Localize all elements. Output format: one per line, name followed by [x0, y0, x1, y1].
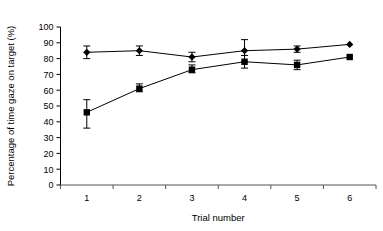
data-point-square [241, 59, 247, 65]
series-line [87, 57, 350, 112]
y-axis-tick-label: 70 [43, 70, 53, 80]
data-point-square [294, 62, 300, 68]
data-point-diamond [346, 41, 353, 48]
y-axis-tick-label: 100 [38, 22, 53, 32]
data-point-diamond [136, 47, 143, 54]
data-point-square [347, 54, 353, 60]
chart-figure: 0102030405060708090100 123456 Percentage… [0, 0, 383, 231]
series-square-series [83, 54, 353, 128]
x-axis-tick-label: 5 [295, 193, 300, 203]
series-diamond-series [83, 40, 353, 62]
data-series-group [83, 40, 353, 128]
y-axis-tick-label: 20 [43, 149, 53, 159]
data-point-diamond [188, 53, 195, 60]
x-axis-tick-label: 3 [189, 193, 194, 203]
data-point-diamond [241, 47, 248, 54]
y-axis-tick-label: 80 [43, 54, 53, 64]
data-point-square [189, 66, 195, 72]
chart-canvas: 0102030405060708090100 123456 Percentage… [0, 0, 383, 231]
y-axis-tick-label: 10 [43, 165, 53, 175]
y-axis-tick-label: 30 [43, 133, 53, 143]
data-point-square [136, 85, 142, 91]
y-axis-title: Percentage of time gaze on target (%) [5, 26, 16, 187]
x-axis-tick-group: 123456 [61, 185, 377, 203]
x-axis-tick-label: 6 [347, 193, 352, 203]
y-axis-tick-label: 60 [43, 86, 53, 96]
data-point-diamond [294, 46, 301, 53]
y-axis-tick-label: 90 [43, 38, 53, 48]
x-axis-tick-label: 4 [242, 193, 247, 203]
y-axis-tick-label: 0 [48, 180, 53, 190]
x-axis-tick-label: 1 [84, 193, 89, 203]
y-axis-tick-label: 50 [43, 101, 53, 111]
x-axis-tick-label: 2 [137, 193, 142, 203]
series-line [87, 44, 350, 57]
y-axis-tick-label: 40 [43, 117, 53, 127]
y-axis-tick-group: 0102030405060708090100 [38, 22, 60, 190]
x-axis-title: Trial number [192, 212, 245, 223]
data-point-diamond [83, 49, 90, 56]
data-point-square [84, 109, 90, 115]
